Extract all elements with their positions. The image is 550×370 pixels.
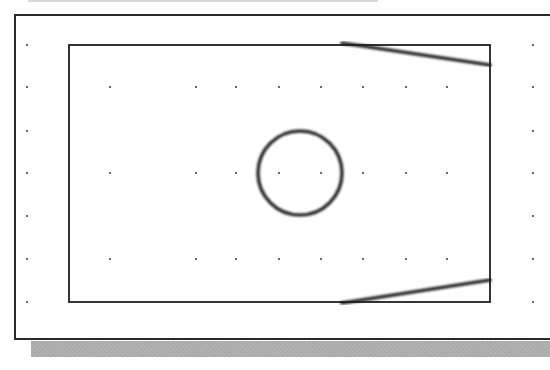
sketch-circle[interactable] (258, 131, 342, 215)
grid-dot (320, 86, 322, 88)
grid-dot (26, 44, 28, 46)
grid-dot (362, 86, 364, 88)
sketch-geometry[interactable] (0, 0, 550, 370)
grid-dot (532, 86, 534, 88)
grid-dot (532, 130, 534, 132)
grid-dot (405, 258, 407, 260)
grid-dot (320, 172, 322, 174)
grid-dot (532, 44, 534, 46)
grid-dot (446, 172, 448, 174)
grid-dot (26, 86, 28, 88)
grid-dot (446, 86, 448, 88)
grid-dot (235, 86, 237, 88)
slanted-line[interactable] (342, 280, 490, 303)
grid-dot (109, 86, 111, 88)
cad-drawing-canvas (0, 0, 550, 370)
grid-dot (195, 258, 197, 260)
grid-dot (235, 172, 237, 174)
snap-grid-dots (26, 44, 534, 303)
grid-dot (109, 172, 111, 174)
grid-dot (405, 86, 407, 88)
grid-dot (26, 172, 28, 174)
grid-dot (532, 215, 534, 217)
grid-dot (320, 258, 322, 260)
grid-dot (446, 258, 448, 260)
grid-dot (195, 86, 197, 88)
slanted-line[interactable] (342, 43, 490, 65)
grid-dot (26, 301, 28, 303)
grid-dot (405, 172, 407, 174)
grid-dot (362, 258, 364, 260)
grid-dot (195, 172, 197, 174)
grid-dot (532, 258, 534, 260)
grid-dot (278, 86, 280, 88)
grid-dot (278, 172, 280, 174)
grid-dot (532, 172, 534, 174)
grid-dot (235, 258, 237, 260)
grid-dot (362, 172, 364, 174)
grid-dot (26, 130, 28, 132)
grid-dot (532, 301, 534, 303)
grid-dot (278, 258, 280, 260)
grid-dot (26, 258, 28, 260)
grid-dot (109, 258, 111, 260)
grid-dot (26, 215, 28, 217)
